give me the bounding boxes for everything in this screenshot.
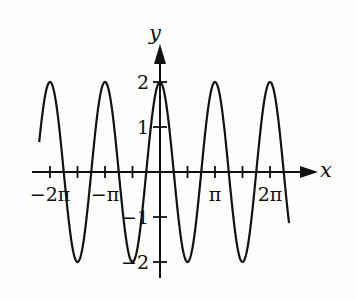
axes xyxy=(32,44,318,278)
y-tick-label: −1 xyxy=(121,206,149,228)
x-tick-label: −2π xyxy=(30,183,71,205)
y-tick-label: 1 xyxy=(137,116,149,138)
chart: −2π−ππ2π21−1−2 x y xyxy=(0,0,356,300)
y-axis-label: y xyxy=(148,21,162,45)
y-axis-arrow-icon xyxy=(154,44,166,64)
x-axis-label: x xyxy=(320,158,332,182)
y-tick-label: 2 xyxy=(137,71,149,93)
plot-area: −2π−ππ2π21−1−2 x y xyxy=(0,0,356,300)
x-tick-label: 2π xyxy=(258,183,283,205)
y-tick-label: −2 xyxy=(121,251,149,273)
x-axis-arrow-icon xyxy=(300,166,318,178)
x-tick-label: −π xyxy=(91,183,119,205)
x-tick-label: π xyxy=(209,183,222,205)
